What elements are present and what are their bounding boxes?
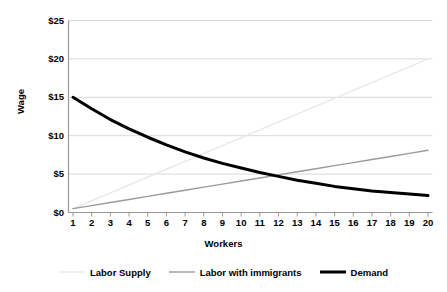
- x-axis-title: Workers: [0, 238, 447, 249]
- legend-line-swatch: [59, 267, 85, 277]
- series-line-labor-with-immigrants: [73, 150, 428, 208]
- chart-legend: Labor SupplyLabor with immigrantsDemand: [0, 262, 447, 282]
- wage-workers-line-chart: Wage $0$5$10$15$20$25 123456789101112131…: [0, 0, 447, 292]
- series-line-labor-supply: [73, 59, 428, 209]
- legend-item-demand[interactable]: Demand: [320, 267, 388, 278]
- axis-lines: [69, 21, 433, 213]
- legend-line-swatch: [169, 267, 195, 277]
- x-axis-ticks: [73, 213, 428, 217]
- x-tick-label: 20: [416, 217, 440, 228]
- legend-label: Labor with immigrants: [200, 267, 302, 278]
- gridlines: [69, 21, 433, 213]
- legend-item-labor-with-immigrants[interactable]: Labor with immigrants: [169, 267, 302, 278]
- series-line-demand: [73, 97, 428, 195]
- data-series: [73, 59, 428, 209]
- legend-label: Labor Supply: [90, 267, 151, 278]
- legend-item-labor-supply[interactable]: Labor Supply: [59, 267, 151, 278]
- legend-label: Demand: [351, 267, 388, 278]
- legend-line-swatch: [320, 267, 346, 277]
